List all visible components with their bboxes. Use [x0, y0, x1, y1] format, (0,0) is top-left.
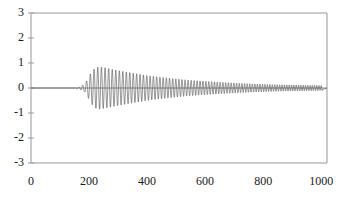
- x-axis-tick-label: 400: [124, 175, 170, 187]
- x-axis-tick-label: 200: [66, 175, 112, 187]
- y-axis-tick-label: -2: [2, 131, 24, 143]
- x-axis-tick-label: 800: [240, 175, 286, 187]
- x-axis-tick-label: 0: [8, 175, 54, 187]
- chart-plot-svg: [0, 0, 351, 204]
- x-axis-tick-label: 1000: [298, 175, 344, 187]
- chart-container: 3210-1-2-3 02004006008001000: [0, 0, 351, 204]
- y-axis-tick-label: 0: [2, 81, 24, 93]
- y-axis-tick-label: 3: [2, 6, 24, 18]
- x-axis-tick-label: 600: [182, 175, 228, 187]
- y-axis-tick-label: 1: [2, 56, 24, 68]
- y-axis-tick-label: 2: [2, 31, 24, 43]
- chart-background: [0, 0, 351, 204]
- y-axis-tick-label: -1: [2, 106, 24, 118]
- y-axis-tick-label: -3: [2, 156, 24, 168]
